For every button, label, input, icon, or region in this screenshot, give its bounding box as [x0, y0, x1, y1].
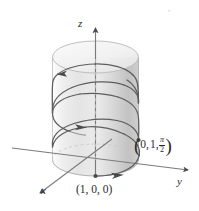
pi-over-two-fraction: π2 [159, 136, 165, 154]
fraction-denominator: 2 [159, 145, 165, 154]
point-label-quarter-turn: (0, 1,π2) [134, 136, 172, 155]
z-axis-label: z [78, 18, 82, 29]
point-x-value: 0, [140, 138, 149, 150]
point-label-origin-start: (1, 0, 0) [76, 184, 112, 196]
point-dot-1-0-0 [93, 174, 97, 178]
x-axis-label: x [41, 185, 46, 196]
paren-close: ) [166, 135, 172, 156]
figure-container: z y x (1, 0, 0) (0, 1,π2) • [0, 0, 199, 211]
y-axis-label: y [177, 176, 182, 187]
point-y-value: 1, [150, 138, 159, 150]
stray-speck-mark: • [168, 10, 171, 13]
helix-cylinder-diagram [0, 0, 199, 211]
fraction-numerator: π [159, 136, 165, 144]
